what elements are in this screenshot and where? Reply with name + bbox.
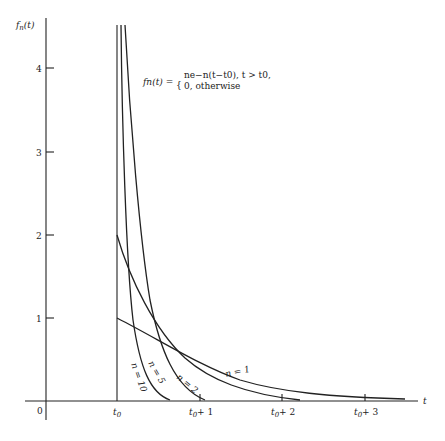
origin-label: 0: [37, 406, 43, 416]
x-tick-label-t0p2: t0+ 2: [271, 407, 295, 419]
y-tick-label-1: 1: [36, 314, 42, 324]
curve-n1: [117, 318, 405, 399]
x-tick-label-t0p3: t0+ 3: [354, 407, 378, 419]
x-axis-label: t: [423, 396, 427, 406]
y-tick-label-2: 2: [36, 231, 42, 241]
y-axis-label: fn(t): [15, 20, 35, 32]
label-n2: n = 2: [175, 372, 201, 396]
y-tick-label-4: 4: [36, 64, 42, 74]
formula-case2: 0, otherwise: [184, 81, 240, 91]
x-tick-label-t0p1: t0+ 1: [189, 407, 213, 419]
label-n1: n = 1: [224, 364, 250, 379]
x-tick-label-t0: t0: [113, 407, 122, 419]
formula-brace: {: [176, 80, 182, 90]
y-tick-label-3: 3: [36, 148, 42, 158]
label-n10: n = 10: [129, 361, 149, 393]
formula-lhs: fn(t) =: [142, 77, 173, 87]
formula-case1: ne−n(t−t0), t > t0,: [184, 70, 271, 80]
chart-canvas: fn(t) 4 3 2 1 0 t0 t0+ 1 t0+ 2 t0+ 3 t n…: [0, 0, 445, 441]
